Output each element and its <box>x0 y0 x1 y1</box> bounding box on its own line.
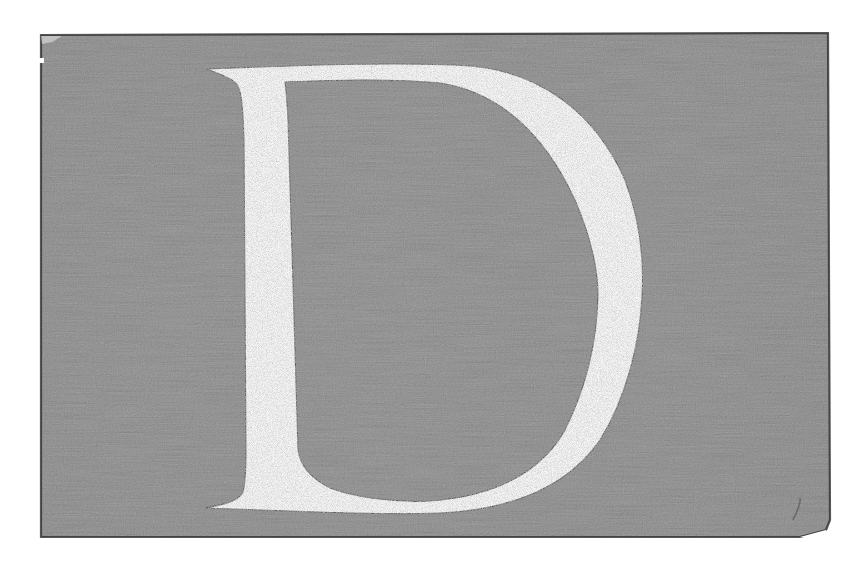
textured-panel <box>38 33 830 538</box>
decorative-initial-artwork: D <box>0 0 867 563</box>
initial-letter-illustration <box>0 0 867 563</box>
